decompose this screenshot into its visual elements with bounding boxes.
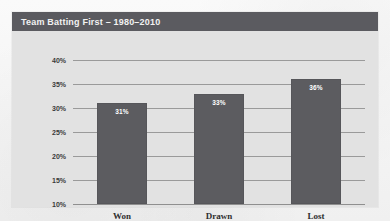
plot-area: 40%35%30%25%20%15%10%31%Won33%Drawn36%Lo…: [12, 31, 378, 207]
gridline: [73, 204, 365, 205]
bar-value-label: 33%: [194, 99, 244, 106]
y-axis-tick-label: 15%: [26, 177, 66, 184]
y-axis-tick-label: 35%: [26, 81, 66, 88]
y-axis-tick-label: 30%: [26, 105, 66, 112]
x-axis-label-drawn: Drawn: [169, 211, 269, 221]
bar-value-label: 31%: [97, 108, 147, 115]
bar-lost[interactable]: 36%: [291, 79, 341, 204]
gridline: [73, 60, 365, 61]
bar-value-label: 36%: [291, 84, 341, 91]
y-axis-tick-label: 20%: [26, 153, 66, 160]
y-axis-tick-label: 40%: [26, 57, 66, 64]
chart-title: Team Batting First – 1980–2010: [21, 17, 160, 27]
y-axis-tick-label: 25%: [26, 129, 66, 136]
x-axis-label-won: Won: [72, 211, 172, 221]
chart-title-bar: Team Batting First – 1980–2010: [12, 12, 378, 31]
y-axis-tick-label: 10%: [26, 201, 66, 208]
chart-panel: Team Batting First – 1980–2010 40%35%30%…: [12, 12, 378, 207]
bar-won[interactable]: 31%: [97, 103, 147, 204]
bar-drawn[interactable]: 33%: [194, 94, 244, 204]
x-axis-label-lost: Lost: [266, 211, 366, 221]
